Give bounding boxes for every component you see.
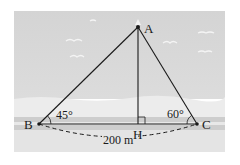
label-a: A <box>144 21 154 36</box>
label-b: B <box>24 117 33 132</box>
sky-background <box>14 11 225 99</box>
angle-label-b: 45° <box>56 108 73 122</box>
angle-label-c: 60° <box>167 107 184 121</box>
label-c: C <box>202 117 211 132</box>
point-a <box>136 25 140 29</box>
distance-label: 200 m <box>103 133 134 147</box>
point-c <box>195 122 199 126</box>
point-b <box>37 122 41 126</box>
label-h: H <box>133 127 142 142</box>
diagram-canvas: A B C H 45° 60° 200 m <box>0 0 240 165</box>
